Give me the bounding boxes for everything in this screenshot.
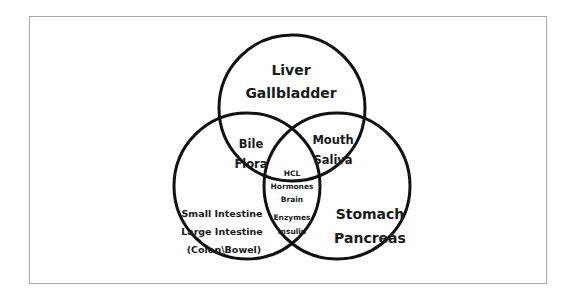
region-right-only: Stomach Pancreas	[334, 206, 406, 246]
label-stomach: Stomach	[336, 206, 405, 222]
label-mouth: Mouth	[312, 133, 353, 147]
label-enzymes: Enzymes	[273, 213, 311, 222]
label-flora: Flora	[234, 157, 267, 171]
label-brain: Brain	[281, 195, 303, 204]
label-colon-bowel: (Colon\Bowel)	[187, 244, 261, 255]
region-top-right: Mouth Saliva	[312, 133, 353, 167]
label-liver: Liver	[271, 62, 310, 78]
label-hormones: Hormones	[271, 182, 315, 191]
label-saliva: Saliva	[313, 153, 352, 167]
region-top-only: Liver Gallbladder	[245, 62, 336, 101]
label-pancreas: Pancreas	[334, 230, 406, 246]
venn-diagram: Liver Gallbladder Bile Flora Mouth Saliv…	[0, 0, 574, 296]
label-bile: Bile	[239, 137, 264, 151]
label-gallbladder: Gallbladder	[245, 85, 336, 101]
region-all-three: HCL Hormones Brain	[271, 169, 315, 204]
label-hcl: HCL	[284, 169, 301, 178]
region-left-only: Small Intestine Large Intestine (Colon\B…	[181, 208, 263, 255]
label-small-intestine: Small Intestine	[182, 208, 263, 219]
region-top-left: Bile Flora	[234, 137, 267, 171]
label-large-intestine: Large Intestine	[181, 226, 263, 237]
label-insulin: Insulin	[278, 227, 306, 236]
region-left-right: Enzymes Insulin	[273, 213, 311, 236]
